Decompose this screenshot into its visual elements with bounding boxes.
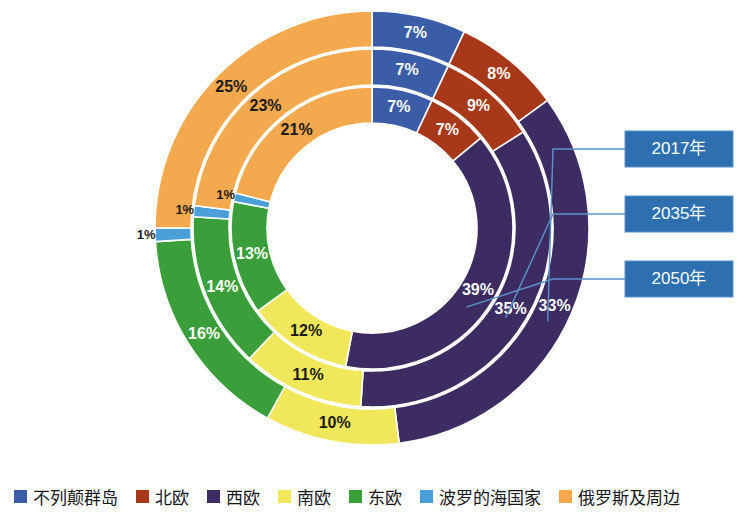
legend-item-label: 南欧 [297,484,331,509]
legend-item-label: 西欧 [226,484,260,509]
legend-item[interactable]: 南欧 [278,484,331,509]
legend-swatch-icon [349,490,362,503]
legend-item[interactable]: 北欧 [136,484,189,509]
legend-item[interactable]: 俄罗斯及周边 [559,484,680,509]
legend-item[interactable]: 波罗的海国家 [420,484,541,509]
chart-legend: 不列颠群岛北欧西欧南欧东欧波罗的海国家俄罗斯及周边 [0,476,746,516]
donut-slice [155,228,191,242]
legend-swatch-icon [278,490,291,503]
donut-rings [155,11,589,445]
legend-item-label: 东欧 [368,484,402,509]
callout-year-label: 2050年 [652,269,707,288]
donut-chart-svg: 7%8%33%10%16%1%25%7%9%35%11%14%1%23%7%7%… [0,0,746,516]
legend-item[interactable]: 西欧 [207,484,260,509]
callout-year-label: 2035年 [652,204,707,223]
legend-swatch-icon [559,490,572,503]
legend-item-label: 不列颠群岛 [33,484,118,509]
legend-swatch-icon [14,490,27,503]
legend-item-label: 北欧 [155,484,189,509]
chart-container: 7%8%33%10%16%1%25%7%9%35%11%14%1%23%7%7%… [0,0,746,516]
slice-percent-label: 1% [137,227,156,242]
legend-item[interactable]: 不列颠群岛 [14,484,118,509]
legend-swatch-icon [207,490,220,503]
legend-item[interactable]: 东欧 [349,484,402,509]
legend-item-label: 波罗的海国家 [439,484,541,509]
legend-swatch-icon [420,490,433,503]
callout-year-label: 2017年 [652,139,707,158]
legend-swatch-icon [136,490,149,503]
legend-item-label: 俄罗斯及周边 [578,484,680,509]
